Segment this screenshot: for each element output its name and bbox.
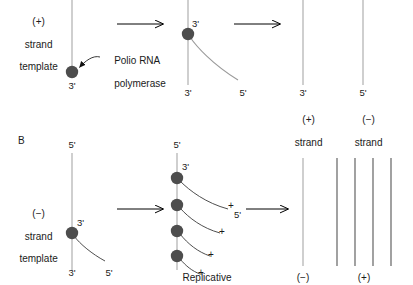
- prime-label-b1-polymerase: 3': [77, 218, 84, 229]
- replicative-intermediate-caption: Replicative: [183, 272, 232, 283]
- polymerase-icon: [171, 250, 183, 262]
- nascent-strand-b2-1: [180, 181, 228, 209]
- nascent-strand-b2-2: [180, 208, 220, 233]
- panel-b-stage2: [171, 153, 228, 274]
- panel-b-stage3: [303, 158, 391, 266]
- panel-a-stage2: [182, 0, 238, 85]
- prime-label-b1-bottom: 3': [68, 268, 75, 279]
- nascent-strand-a2: [190, 37, 238, 80]
- polymerase-icon: [171, 172, 183, 184]
- nascent-strand-b2-3: [180, 234, 210, 256]
- prime-label-b2-top: 5': [173, 140, 180, 151]
- figure-poliovirus-replication: (+) strand template Polio RNA polymerase…: [0, 0, 413, 285]
- annotation-line1: Polio RNA: [114, 55, 160, 66]
- prime-label-b2-nascent-end: 5': [234, 210, 241, 221]
- product-label-plus-b: (+): [358, 272, 371, 283]
- annotation-line2: polymerase: [114, 78, 166, 89]
- panel-a-stage1: [66, 0, 100, 78]
- prime-label-b2-polymerase: 3': [182, 162, 189, 173]
- template-label-line3: template: [19, 61, 57, 72]
- annotation-leader-line: [80, 57, 101, 68]
- prime-label-a2-polymerase: 3': [192, 19, 199, 30]
- plus-mark-2: +: [219, 226, 225, 237]
- template-label-line1: (+): [32, 16, 45, 27]
- polymerase-icon: [182, 28, 194, 40]
- prime-label-a3-minus: 5': [359, 88, 366, 99]
- plus-strand-line1: (+): [302, 114, 315, 125]
- polymerase-icon: [171, 225, 183, 237]
- product-label-plus-strand-a: (+) strand: [284, 103, 323, 159]
- panel-b-stage1: [66, 153, 105, 270]
- nascent-strand-b1: [74, 236, 105, 261]
- minus-strand-line2: strand: [355, 137, 383, 148]
- plus-mark-3: +: [208, 249, 214, 260]
- panel-b-template-label: (−) strand template: [8, 197, 57, 275]
- prime-label-b1-nascent-end: 5': [105, 268, 112, 279]
- prime-label-a2-template-bottom: 3': [184, 88, 191, 99]
- template-label-line3: template: [19, 253, 57, 264]
- prime-label-a1-bottom: 3': [68, 81, 75, 92]
- product-label-minus-b: (−): [297, 272, 310, 283]
- template-label-line2: strand: [25, 231, 53, 242]
- panel-a-stage3: [303, 0, 363, 85]
- minus-strand-line1: (−): [362, 114, 375, 125]
- prime-label-b1-top: 5': [68, 140, 75, 151]
- panel-b-label: B: [18, 135, 25, 146]
- prime-label-a2-nascent-end: 5': [239, 88, 246, 99]
- template-label-line1: (−): [32, 208, 45, 219]
- polymerase-icon: [66, 227, 78, 239]
- panel-a-template-label: (+) strand template: [8, 5, 57, 83]
- plus-strand-line2: strand: [295, 137, 323, 148]
- plus-mark-1: +: [228, 200, 234, 211]
- polymerase-annotation: Polio RNA polymerase: [103, 44, 166, 100]
- polymerase-icon: [66, 66, 78, 78]
- product-label-minus-strand-a: (−) strand: [344, 103, 383, 159]
- template-label-line2: strand: [25, 39, 53, 50]
- polymerase-icon: [171, 199, 183, 211]
- prime-label-a3-plus: 3': [299, 88, 306, 99]
